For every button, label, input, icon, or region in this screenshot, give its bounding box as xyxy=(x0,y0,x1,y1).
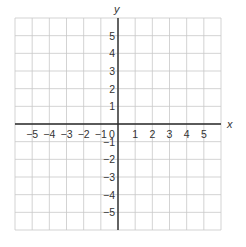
x-tick-label: 3 xyxy=(167,128,173,140)
coordinate-plane: x y −5−4−3−2−1012345 54321−1−2−3−4−5 xyxy=(0,0,246,247)
x-tick-label: 4 xyxy=(184,128,190,140)
y-tick-label: −5 xyxy=(103,206,115,218)
y-axis-label: y xyxy=(113,3,121,15)
y-tick-label: −1 xyxy=(103,136,115,148)
x-tick-label: −3 xyxy=(61,128,73,140)
y-tick-label: 5 xyxy=(109,30,115,42)
y-tick-label: −3 xyxy=(103,171,115,183)
x-axis-label: x xyxy=(226,118,233,130)
y-tick-label: −2 xyxy=(103,153,115,165)
y-tick-label: 3 xyxy=(109,65,115,77)
y-tick-label: 2 xyxy=(109,83,115,95)
x-tick-label: −5 xyxy=(26,128,38,140)
x-tick-labels: −5−4−3−2−1012345 xyxy=(26,128,207,140)
x-tick-label: −2 xyxy=(78,128,90,140)
x-tick-label: 1 xyxy=(132,128,138,140)
y-tick-label: 1 xyxy=(109,100,115,112)
y-tick-label: 4 xyxy=(109,47,115,59)
x-tick-label: 5 xyxy=(201,128,207,140)
x-tick-label: 2 xyxy=(149,128,155,140)
y-tick-label: −4 xyxy=(103,189,115,201)
x-tick-label: −4 xyxy=(43,128,55,140)
